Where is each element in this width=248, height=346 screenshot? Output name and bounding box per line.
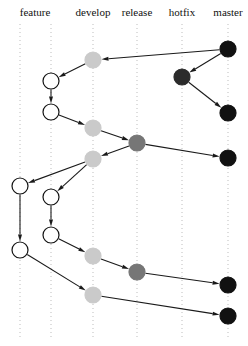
edge-arrowhead-icon xyxy=(49,220,53,227)
edge-e6 xyxy=(59,115,85,125)
edge-e7 xyxy=(101,131,129,141)
edge-arrowhead-icon xyxy=(49,97,53,104)
edge-line xyxy=(145,144,212,155)
commit-node-h1[interactable] xyxy=(174,69,190,85)
edge-e13 xyxy=(18,195,22,242)
edge-arrowhead-icon xyxy=(189,67,196,72)
edge-e2 xyxy=(189,53,220,72)
edge-line xyxy=(59,239,80,249)
column-header-master: master xyxy=(213,7,242,18)
commit-node-r1[interactable] xyxy=(129,135,145,151)
commit-node-f3[interactable] xyxy=(12,178,28,194)
git-branching-diagram: featuredevelopreleasehotfixmaster xyxy=(0,0,248,346)
commit-node-f5[interactable] xyxy=(43,227,59,243)
edge-e12 xyxy=(49,206,53,227)
edge-line xyxy=(101,296,212,313)
edge-arrowhead-icon xyxy=(212,312,219,316)
edge-line xyxy=(27,254,80,286)
edge-line xyxy=(145,273,212,283)
commit-node-d2[interactable] xyxy=(85,120,101,136)
commit-node-r2[interactable] xyxy=(129,264,145,280)
edge-e4 xyxy=(189,82,222,108)
column-header-hotfix: hotfix xyxy=(169,7,195,18)
edge-e17 xyxy=(145,273,219,285)
commit-node-m3[interactable] xyxy=(220,150,236,166)
commit-node-m4[interactable] xyxy=(220,277,236,293)
edge-arrowhead-icon xyxy=(212,281,219,285)
commit-node-m1[interactable] xyxy=(220,41,236,57)
edge-arrowhead-icon xyxy=(212,154,219,158)
edge-e3 xyxy=(59,64,86,77)
edge-arrowhead-icon xyxy=(122,265,129,269)
edge-arrowhead-icon xyxy=(18,235,22,242)
commit-node-d4[interactable] xyxy=(85,248,101,264)
commit-node-d5[interactable] xyxy=(85,287,101,303)
column-header-feature-b: feature xyxy=(20,7,51,18)
edge-line xyxy=(101,259,122,267)
branch-graph-canvas xyxy=(0,0,248,346)
edge-line xyxy=(189,82,216,103)
column-header-release: release xyxy=(122,7,153,18)
edge-group xyxy=(18,50,221,316)
edge-arrowhead-icon xyxy=(78,121,85,125)
gridline-group xyxy=(20,24,228,340)
commit-node-f2[interactable] xyxy=(43,104,59,120)
edge-line xyxy=(108,146,129,154)
edge-arrowhead-icon xyxy=(59,72,66,77)
edge-arrowhead-icon xyxy=(79,285,86,290)
commit-node-m5[interactable] xyxy=(220,308,236,324)
edge-line xyxy=(62,165,86,187)
edge-e11 xyxy=(57,165,86,192)
edge-line xyxy=(108,50,219,59)
edge-e14 xyxy=(59,239,86,252)
edge-line xyxy=(35,162,85,181)
edge-e9 xyxy=(101,146,129,156)
commit-node-d3[interactable] xyxy=(85,151,101,167)
edge-arrowhead-icon xyxy=(101,152,108,156)
commit-node-d1[interactable] xyxy=(85,52,101,68)
edge-e8 xyxy=(145,144,219,157)
edge-arrowhead-icon xyxy=(101,57,108,61)
commit-node-f1[interactable] xyxy=(43,73,59,89)
edge-line xyxy=(59,115,79,122)
edge-e1 xyxy=(101,50,219,61)
edge-line xyxy=(195,53,220,69)
edge-e5 xyxy=(49,90,53,104)
commit-node-m2[interactable] xyxy=(220,105,236,121)
edge-arrowhead-icon xyxy=(122,136,129,140)
edge-line xyxy=(101,131,122,138)
edge-e15 xyxy=(27,254,86,290)
column-header-develop: develop xyxy=(76,7,111,18)
commit-node-f6[interactable] xyxy=(12,242,28,258)
edge-line xyxy=(65,64,86,74)
edge-arrowhead-icon xyxy=(28,179,35,183)
commit-node-f4[interactable] xyxy=(43,189,59,205)
edge-arrowhead-icon xyxy=(78,247,85,252)
edge-e18 xyxy=(101,296,219,315)
edge-e10 xyxy=(28,162,85,183)
edge-e16 xyxy=(101,259,129,269)
